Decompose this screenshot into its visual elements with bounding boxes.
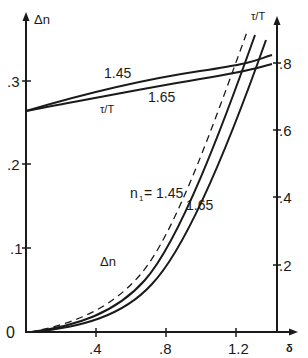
y-right-axis-title: τ/T — [251, 10, 265, 22]
tau-ratio-curves: 1.45 1.65 τ/T — [26, 55, 272, 115]
y-left-tick-label: .3 — [7, 73, 20, 90]
dn-label-165: 1.65 — [186, 197, 213, 213]
tau-label-165: 1.65 — [148, 89, 175, 105]
x-axis-arrow-icon — [289, 329, 298, 336]
x-tick-label: .4 — [89, 340, 102, 357]
delta-n-curve-label: Δn — [100, 254, 116, 269]
right-axis-arrow-icon — [274, 16, 281, 25]
delta-n-curve-145 — [32, 35, 255, 332]
dn-label-145: = 1.45 — [144, 185, 184, 201]
right-axis-ticks: .8 .6 .4 .2 τ/T — [251, 10, 292, 274]
y-left-tick-label: .1 — [10, 240, 23, 257]
y-right-tick-label: .8 — [279, 55, 292, 72]
y-left-tick-label: .2 — [7, 156, 20, 173]
tau-label-145: 1.45 — [104, 65, 131, 81]
x-axis-title: δ — [286, 342, 293, 354]
chart: .3 .2 .1 0 Δn .4 .8 1.2 δ .8 .6 .4 .2 τ/… — [0, 0, 308, 358]
y-right-tick-label: .2 — [279, 257, 292, 274]
tau-ratio-label: τ/T — [100, 103, 114, 115]
x-tick-label: .8 — [159, 340, 172, 357]
delta-n-curves: n 1 = 1.45 1.65 Δn — [30, 32, 266, 332]
origin-label: 0 — [6, 324, 15, 341]
x-tick-label: 1.2 — [228, 340, 249, 357]
y-right-tick-label: .4 — [279, 189, 292, 206]
y-right-tick-label: .6 — [279, 122, 292, 139]
n1-label: n — [130, 185, 138, 201]
left-axis-ticks: .3 .2 .1 0 Δn — [6, 12, 50, 341]
left-axis-arrow-icon — [23, 12, 30, 21]
y-left-axis-title: Δn — [34, 12, 50, 27]
